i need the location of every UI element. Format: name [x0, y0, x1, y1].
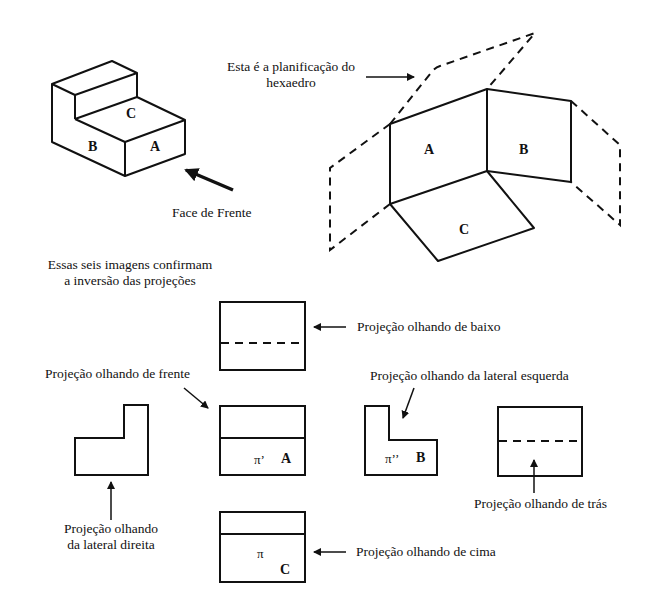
top-view-face: C	[280, 562, 290, 578]
right-side-view-label: Projeção olhando da lateral direita	[36, 521, 186, 553]
top-view-plane: π	[257, 546, 264, 562]
planification-dashed-faces	[330, 33, 620, 250]
front-face-label: Face de Frente	[172, 205, 251, 221]
projection-right-side-view	[75, 405, 148, 475]
planification-caption-line1: Esta é a planificação do	[216, 59, 366, 75]
projection-bottom-view	[220, 302, 305, 370]
left-side-view-plane: π’’	[385, 451, 399, 467]
front-view-arrow	[184, 388, 208, 408]
diagram-canvas	[0, 0, 653, 610]
iso-face-a-label: A	[150, 139, 160, 155]
front-face-arrow	[186, 170, 233, 190]
isometric-solid	[52, 61, 185, 176]
planification-caption: Esta é a planificação do hexaedro	[216, 59, 366, 91]
right-side-view-label-line1: Projeção olhando	[36, 521, 186, 537]
bottom-view-label: Projeção olhando de baixo	[357, 319, 501, 335]
iso-face-c-label: C	[126, 106, 136, 122]
left-side-view-arrow	[403, 388, 414, 418]
right-side-view-label-line2: da lateral direita	[36, 537, 186, 553]
front-view-face: A	[281, 451, 291, 467]
front-view-label: Projeção olhando de frente	[45, 366, 190, 382]
left-side-view-label: Projeção olhando da lateral esquerda	[370, 368, 569, 384]
net-face-b-label: B	[519, 142, 528, 158]
summary-line1: Essas seis imagens confirmam	[30, 257, 230, 273]
summary-line2: a inversão das projeções	[30, 273, 230, 289]
left-side-view-face: B	[416, 450, 425, 466]
projection-back-view	[498, 407, 582, 476]
iso-face-b-label: B	[88, 139, 97, 155]
top-view-label: Projeção olhando de cima	[356, 544, 496, 560]
projection-left-side-view	[365, 406, 437, 475]
net-face-c-label: C	[459, 222, 469, 238]
front-view-plane: π’	[254, 452, 265, 468]
summary-text: Essas seis imagens confirmam a inversão …	[30, 257, 230, 289]
back-view-label: Projeção olhando de trás	[474, 496, 607, 512]
net-face-a-label: A	[424, 142, 434, 158]
planification-caption-line2: hexaedro	[216, 75, 366, 91]
planification-net	[390, 89, 571, 261]
